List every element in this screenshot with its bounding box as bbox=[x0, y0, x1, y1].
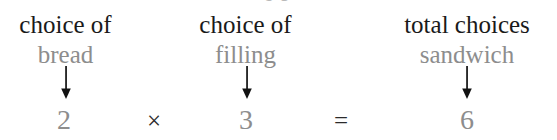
clipped-text-artifact: of bbox=[0, 0, 557, 7]
down-arrow-icon bbox=[459, 66, 475, 100]
operator-times: × bbox=[123, 108, 185, 133]
down-arrow-icon bbox=[239, 66, 255, 100]
multiplication-principle-diagram: of choice of bread 2 × choice of filling… bbox=[0, 0, 557, 140]
operator-equals: = bbox=[310, 108, 372, 133]
column-sandwich-subject: sandwich bbox=[381, 42, 553, 67]
column-bread-subject: bread bbox=[0, 42, 131, 67]
column-sandwich-value: 6 bbox=[436, 106, 498, 134]
column-sandwich-heading: total choices bbox=[381, 12, 553, 37]
column-bread-heading: choice of bbox=[0, 12, 131, 37]
column-filling-value: 3 bbox=[215, 106, 277, 134]
down-arrow-icon bbox=[58, 66, 74, 100]
column-bread-value: 2 bbox=[33, 106, 95, 134]
column-filling-heading: choice of bbox=[180, 12, 311, 37]
column-filling-subject: filling bbox=[180, 42, 311, 67]
